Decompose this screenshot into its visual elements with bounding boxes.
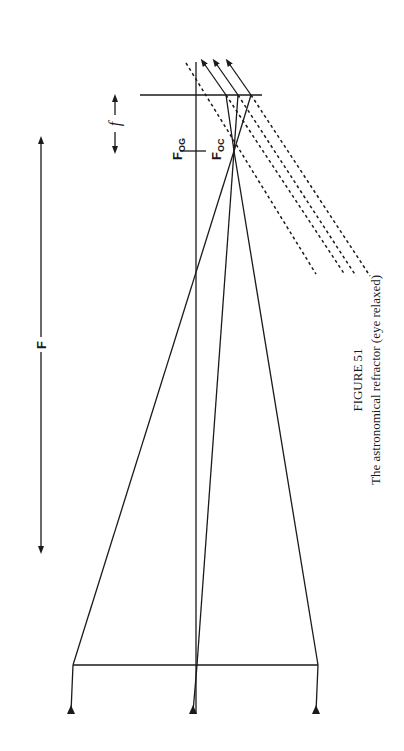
figure-number: FIGURE 51 <box>350 348 365 411</box>
focal-point-markers: FOG FOC <box>170 138 226 160</box>
arrow-up-icon <box>67 705 75 714</box>
ray-right-to-focus <box>234 151 318 665</box>
incoming-ray-left <box>71 665 73 712</box>
focus-eyepiece-label: FOC <box>209 138 226 160</box>
arrow-up-icon <box>312 705 320 714</box>
virtual-ray-3 <box>251 95 370 276</box>
virtual-ray-1 <box>226 95 345 275</box>
objective-focal-length-dimension: F <box>34 140 49 550</box>
emergent-ray-1 <box>203 62 226 95</box>
eyepiece-focal-length-dimension: f <box>106 98 124 150</box>
ray-focus-to-eyepiece-1 <box>226 95 234 151</box>
astronomical-refractor-diagram: F f FOG FOC <box>0 0 404 751</box>
diverging-rays <box>226 95 251 151</box>
incoming-rays <box>67 665 320 714</box>
virtual-ray-2 <box>238 95 356 276</box>
figure-caption: FIGURE 51 The astronomical refractor (ey… <box>350 275 383 485</box>
emergent-ray-2 <box>215 62 238 95</box>
emergent-ray-3 <box>228 62 251 95</box>
ray-left-to-focus <box>73 151 234 665</box>
emergent-rays <box>203 62 251 95</box>
objective-focal-length-label: F <box>34 341 49 349</box>
figure-caption-text: The astronomical refractor (eye relaxed) <box>368 275 383 485</box>
ray-center-to-focus <box>197 151 234 665</box>
incoming-ray-right <box>316 665 318 712</box>
eyepiece-focal-length-label: f <box>106 119 124 126</box>
focus-objective-label: FOG <box>170 138 187 160</box>
